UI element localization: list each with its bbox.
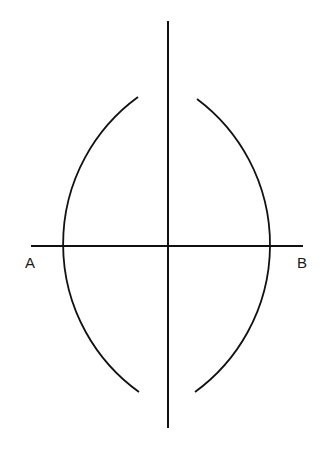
label-point-a: A <box>25 255 35 270</box>
label-point-b: B <box>297 255 307 270</box>
arc-from-b <box>63 97 139 392</box>
construction-diagram <box>0 0 326 465</box>
